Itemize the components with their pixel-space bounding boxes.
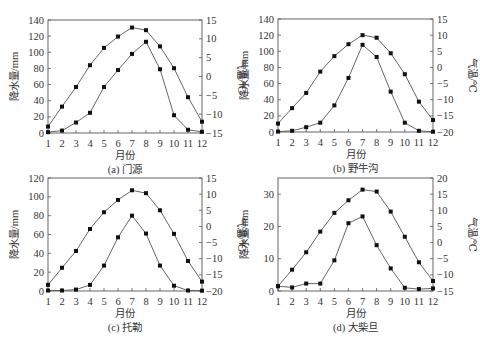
panel-b-yeniugou: 123456789101112020406080100120140−20−15−… [238, 14, 479, 176]
precipitation-marker [186, 289, 190, 293]
x-tick-label: 6 [346, 137, 351, 148]
temperature-marker [200, 280, 204, 284]
y-right-tick-label: −15 [206, 269, 222, 280]
temperature-marker [88, 63, 92, 67]
y-left-tick-label: 20 [264, 110, 275, 121]
y-left-tick-label: 100 [28, 191, 44, 202]
x-tick-label: 6 [115, 296, 120, 307]
x-tick-label: 2 [59, 138, 64, 149]
y-left-tick-label: 0 [269, 286, 274, 297]
x-axis-title: 月份 [115, 150, 136, 161]
y-right-tick-label: −20 [437, 127, 453, 138]
y-left-tick-label: 20 [264, 221, 275, 232]
x-tick-label: 7 [129, 296, 134, 307]
x-tick-label: 10 [169, 138, 180, 149]
temperature-marker [102, 46, 106, 50]
y-left-axis-title: 降水量/mm [8, 210, 20, 259]
precipitation-marker [144, 232, 148, 236]
x-tick-label: 2 [59, 296, 64, 307]
y-left-tick-label: 40 [34, 95, 45, 106]
precipitation-marker [130, 214, 134, 218]
panel-caption: (d) 大柴旦 [333, 321, 378, 334]
temperature-marker [361, 33, 365, 37]
y-left-tick-label: 120 [258, 30, 274, 41]
temperature-marker [332, 211, 336, 215]
x-tick-label: 9 [157, 138, 162, 149]
y-right-tick-label: 10 [206, 33, 217, 44]
precipitation-marker [276, 130, 280, 134]
precipitation-marker [158, 264, 162, 268]
y-right-tick-label: 15 [437, 14, 448, 25]
y-left-tick-label: 140 [28, 15, 44, 26]
x-tick-label: 9 [388, 296, 393, 307]
temperature-line [278, 190, 433, 287]
precipitation-marker [389, 266, 393, 270]
y-right-tick-label: 0 [437, 237, 442, 248]
panel-caption: (b) 野牛沟 [333, 162, 378, 175]
y-right-tick-label: 0 [206, 221, 211, 232]
y-left-tick-label: 80 [34, 63, 45, 74]
precipitation-marker [332, 103, 336, 107]
y-right-tick-label: −10 [437, 269, 453, 280]
temperature-marker [389, 51, 393, 55]
y-left-tick-label: 0 [39, 128, 44, 139]
x-axis-title: 月份 [346, 149, 367, 160]
precipitation-marker [375, 55, 379, 59]
y-right-tick-label: −20 [206, 286, 222, 297]
x-tick-label: 5 [332, 296, 337, 307]
temperature-marker [172, 232, 176, 236]
temperature-marker [102, 210, 106, 214]
y-right-tick-label: 5 [437, 46, 442, 57]
x-tick-label: 1 [275, 296, 280, 307]
y-right-tick-label: −10 [437, 94, 453, 105]
precipitation-marker [361, 43, 365, 47]
temperature-marker [290, 106, 294, 110]
y-right-tick-label: −10 [206, 253, 222, 264]
temperature-marker [74, 85, 78, 89]
y-left-tick-label: 120 [28, 173, 44, 184]
precipitation-marker [158, 67, 162, 71]
temperature-marker [290, 268, 294, 272]
temperature-marker [172, 66, 176, 70]
x-tick-label: 8 [143, 296, 148, 307]
temperature-marker [389, 210, 393, 214]
y-right-tick-label: 5 [206, 52, 211, 63]
temperature-marker [375, 36, 379, 40]
x-tick-label: 10 [400, 137, 411, 148]
y-right-axis-title: 气温/℃ [467, 58, 479, 93]
precipitation-marker [361, 214, 365, 218]
y-left-tick-label: 10 [264, 253, 275, 264]
x-tick-label: 6 [346, 296, 351, 307]
x-tick-label: 8 [374, 296, 379, 307]
x-tick-label: 10 [400, 296, 411, 307]
temperature-marker [304, 250, 308, 254]
plot-frame [48, 20, 202, 133]
precipitation-marker [318, 282, 322, 286]
y-left-tick-label: 60 [34, 229, 45, 240]
temperature-marker [318, 70, 322, 74]
x-tick-label: 12 [428, 137, 439, 148]
temperature-line [48, 190, 202, 285]
precipitation-marker [431, 130, 435, 134]
temperature-marker [116, 35, 120, 39]
precipitation-line [278, 216, 433, 289]
y-right-tick-label: 20 [437, 173, 448, 184]
y-right-tick-label: 0 [437, 62, 442, 73]
x-tick-label: 4 [318, 296, 324, 307]
y-right-tick-label: −5 [206, 237, 217, 248]
temperature-marker [417, 100, 421, 104]
x-tick-label: 11 [414, 137, 424, 148]
y-right-tick-label: −5 [206, 90, 217, 101]
precipitation-marker [290, 285, 294, 289]
temperature-marker [46, 283, 50, 287]
temperature-line [278, 35, 433, 124]
precipitation-marker [304, 282, 308, 286]
temperature-marker [346, 198, 350, 202]
y-left-tick-label: 40 [264, 94, 275, 105]
y-right-tick-label: 5 [437, 221, 442, 232]
temperature-marker [144, 28, 148, 32]
x-tick-label: 4 [87, 138, 93, 149]
temperature-marker [403, 72, 407, 76]
climate-chart-figure: 123456789101112020406080100120140−15−10−… [0, 0, 480, 350]
y-right-tick-label: 15 [206, 173, 217, 184]
